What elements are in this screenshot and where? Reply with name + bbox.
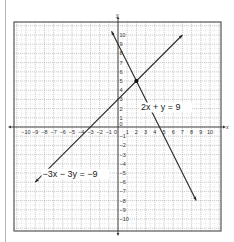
y-tick-label: −5: [120, 170, 126, 176]
y-tick-label: −2: [120, 142, 126, 148]
x-tick-label: −1: [106, 129, 112, 135]
x-tick-label: 0: [114, 129, 117, 135]
x-tick-label: 4: [153, 129, 156, 135]
y-tick-label: −3: [120, 152, 126, 158]
origin-label: 0: [120, 121, 123, 127]
x-axis-arrow-left-icon: [8, 126, 11, 129]
y-tick-label: −1: [120, 133, 126, 139]
y-tick-label: 2: [120, 106, 123, 112]
x-tick-label: 10: [207, 129, 213, 135]
y-tick-label: −6: [120, 179, 126, 185]
x-tick-label: −8: [41, 129, 47, 135]
equation-labels: 2x + y = 9−3x − 3y = −9: [42, 102, 192, 178]
x-tick-label: −6: [60, 129, 66, 135]
y-tick-label: −10: [120, 216, 129, 222]
y-tick-label: 10: [120, 32, 126, 38]
x-tick-label: −10: [21, 129, 30, 135]
x-tick-label: 6: [172, 129, 175, 135]
y-axis-label: y: [115, 12, 119, 18]
intersection-point: [134, 79, 138, 83]
x-tick-label: −2: [96, 129, 102, 135]
x-tick-label: 7: [181, 129, 184, 135]
y-tick-label: −9: [120, 207, 126, 213]
grid: [14, 22, 221, 231]
x-tick-label: −9: [32, 129, 38, 135]
y-tick-label: −8: [120, 198, 126, 204]
y-tick-label: 9: [120, 41, 123, 47]
y-tick-label: 7: [120, 60, 123, 66]
x-tick-label: 8: [190, 129, 193, 135]
coordinate-plane: −10−9−8−7−6−5−4−3−2−1012345678910−10−9−8…: [0, 0, 234, 242]
x-tick-label: −5: [69, 129, 75, 135]
y-tick-label: 4: [120, 87, 123, 93]
x-tick-label: 2: [135, 129, 138, 135]
y-tick-label: 6: [120, 69, 123, 75]
y-tick-label: −4: [120, 161, 126, 167]
x-tick-label: 1: [126, 129, 129, 135]
x-axis-label: x: [225, 124, 229, 130]
equation-label: 2x + y = 9: [141, 102, 181, 112]
x-tick-label: −7: [50, 129, 56, 135]
x-tick-label: 9: [199, 129, 202, 135]
equation-label: −3x − 3y = −9: [43, 169, 98, 179]
y-tick-label: 5: [120, 78, 123, 84]
y-axis-arrow-down-icon: [117, 233, 120, 236]
x-tick-label: 3: [144, 129, 147, 135]
y-tick-label: −7: [120, 188, 126, 194]
